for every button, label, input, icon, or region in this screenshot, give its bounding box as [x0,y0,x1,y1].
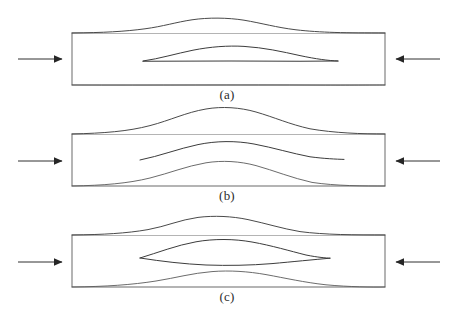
panel-c [18,216,440,287]
top-surface-curve-c [72,216,385,235]
panel-caption-b: (b) [0,189,454,202]
specimen-box-c [72,235,385,287]
delamination-lower-lip-c [140,258,330,265]
top-surface-curve-a [72,18,385,33]
top-surface-curve-b [72,108,385,134]
panel-a [18,18,440,85]
panel-b [18,108,440,186]
figure-root: (a) (b) (c) [0,0,454,325]
bottom-surface-curve-b [72,161,385,186]
delamination-line-b [140,142,344,160]
panel-caption-c: (c) [0,290,454,303]
bottom-surface-curve-c [72,271,385,287]
delamination-upper-lip-a [143,46,338,61]
specimen-box-a [72,33,385,85]
delamination-upper-lip-c [140,239,330,258]
panel-caption-a: (a) [0,88,454,101]
delamination-buckling-figure [0,0,454,325]
